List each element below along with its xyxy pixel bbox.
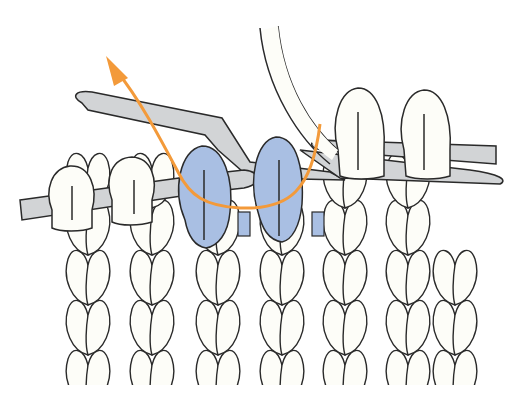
knitting-illustration (0, 0, 529, 419)
knitting-diagram: Knitting technique: slipped stitches pas… (0, 0, 529, 419)
highlight-connector (312, 212, 324, 236)
highlight-connector (238, 212, 250, 236)
